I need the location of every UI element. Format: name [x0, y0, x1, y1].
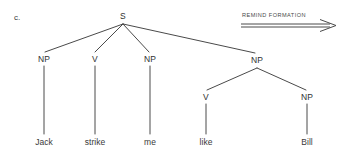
edge-s-np3: [123, 24, 255, 53]
tree-node-np2: NP: [144, 54, 156, 64]
syntax-tree-lines: [0, 0, 343, 157]
arrow-head: [320, 20, 336, 32]
tree-terminal-like: like: [200, 137, 213, 147]
tree-terminal-me: me: [144, 137, 156, 147]
tree-node-v1: V: [92, 54, 98, 64]
tree-terminal-bill: Bill: [301, 137, 312, 147]
remind-formation-arrow: [241, 20, 336, 32]
edge-np3-np4: [257, 68, 306, 90]
tree-terminal-strike: strike: [85, 137, 105, 147]
tree-terminal-jack: Jack: [35, 137, 52, 147]
edge-np3-v2: [207, 68, 257, 90]
edge-s-np1: [45, 24, 123, 52]
tree-node-s: S: [120, 11, 126, 21]
edge-s-np2: [123, 24, 149, 52]
tree-node-np4: NP: [301, 92, 313, 102]
tree-node-np1: NP: [38, 54, 50, 64]
figure-canvas: c. S NP V NP NP V NP Jac: [0, 0, 343, 157]
remind-formation-label: REMIND FORMATION: [242, 12, 306, 18]
tree-node-v2: V: [203, 92, 209, 102]
tree-node-np3: NP: [251, 55, 263, 65]
edge-s-v1: [95, 24, 123, 52]
